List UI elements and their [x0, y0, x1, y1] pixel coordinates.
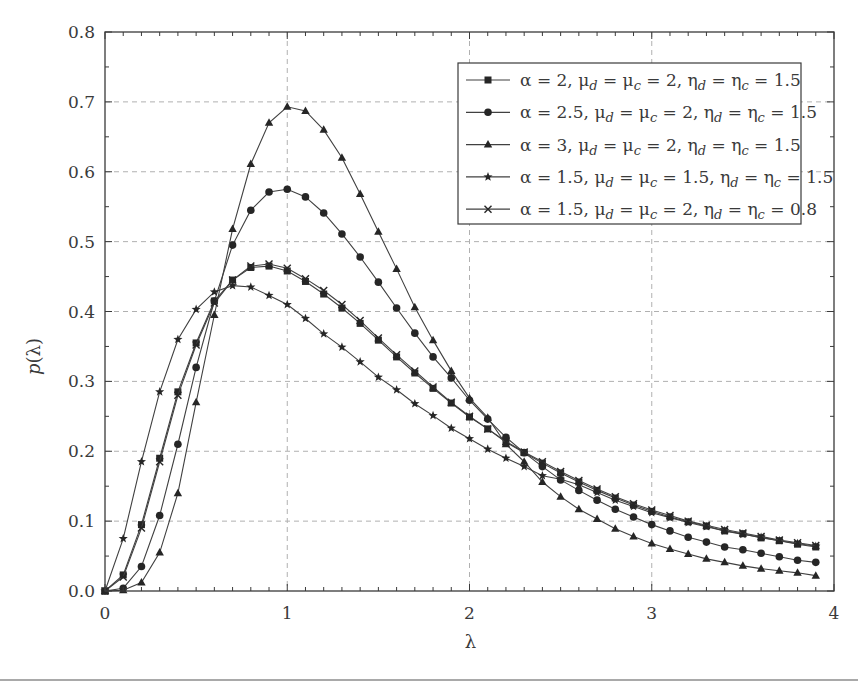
y-tick-label: 0.2	[68, 441, 95, 461]
triangle-marker-icon	[137, 578, 145, 586]
circle-marker-icon	[138, 563, 146, 571]
circle-marker-icon	[666, 527, 674, 535]
y-axis-title: p(λ)	[23, 338, 44, 375]
square-marker-icon	[485, 77, 492, 84]
square-marker-icon	[320, 291, 327, 298]
triangle-marker-icon	[283, 102, 291, 110]
circle-marker-icon	[684, 533, 692, 541]
circle-marker-icon	[484, 109, 492, 117]
circle-marker-icon	[648, 521, 656, 529]
square-marker-icon	[338, 305, 345, 312]
x-axis-title: λ	[465, 631, 476, 652]
circle-marker-icon	[265, 188, 273, 196]
triangle-marker-icon	[611, 524, 619, 532]
circle-marker-icon	[356, 253, 364, 261]
circle-marker-icon	[393, 304, 401, 312]
circle-marker-icon	[320, 209, 328, 217]
circle-marker-icon	[593, 496, 601, 504]
star-marker-icon	[173, 335, 182, 344]
triangle-marker-icon	[447, 366, 455, 374]
triangle-marker-icon	[374, 227, 382, 235]
triangle-marker-icon	[429, 336, 437, 344]
triangle-marker-icon	[411, 303, 419, 311]
x-tick-label: 4	[829, 603, 840, 623]
y-tick-label: 0.1	[68, 511, 95, 531]
x-tick-label: 0	[100, 603, 111, 623]
legend-label: α = 1.5, μd = μc = 1.5, ηd = ηc = 1.5	[520, 167, 833, 190]
triangle-marker-icon	[356, 190, 364, 198]
triangle-marker-icon	[593, 515, 601, 523]
triangle-marker-icon	[174, 489, 182, 497]
star-marker-icon	[119, 534, 128, 543]
circle-marker-icon	[302, 193, 310, 201]
series-star	[100, 281, 820, 595]
triangle-marker-icon	[338, 153, 346, 161]
circle-marker-icon	[721, 543, 729, 551]
triangle-marker-icon	[265, 118, 273, 126]
triangle-marker-icon	[247, 160, 255, 168]
circle-marker-icon	[812, 559, 820, 567]
series-cross	[102, 260, 820, 594]
star-marker-icon	[447, 423, 456, 432]
y-tick-label: 0.8	[68, 22, 95, 42]
y-tick-label: 0.4	[68, 302, 95, 322]
legend-label: α = 3, μd = μc = 2, ηd = ηc = 1.5	[520, 135, 801, 158]
series-square	[102, 263, 820, 595]
triangle-marker-icon	[228, 225, 236, 233]
x-tick-label: 2	[464, 603, 475, 623]
triangle-marker-icon	[392, 264, 400, 272]
y-tick-label: 0.6	[68, 162, 95, 182]
circle-marker-icon	[776, 553, 784, 561]
triangle-marker-icon	[155, 548, 163, 556]
circle-marker-icon	[174, 440, 182, 448]
circle-marker-icon	[247, 206, 255, 214]
circle-marker-icon	[429, 353, 437, 361]
circle-marker-icon	[612, 505, 620, 513]
star-marker-icon	[246, 282, 255, 291]
legend-label: α = 2, μd = μc = 2, ηd = ηc = 1.5	[520, 70, 801, 93]
legend-label: α = 2.5, μd = μc = 2, ηd = ηc = 1.5	[520, 102, 817, 125]
x-tick-label: 3	[646, 603, 657, 623]
y-tick-label: 0.3	[68, 371, 95, 391]
circle-marker-icon	[575, 487, 583, 495]
legend: α = 2, μd = μc = 2, ηd = ηc = 1.5α = 2.5…	[458, 63, 833, 224]
circle-marker-icon	[739, 546, 747, 554]
x-tick-label: 1	[282, 603, 293, 623]
circle-marker-icon	[703, 538, 711, 546]
triangle-marker-icon	[192, 398, 200, 406]
y-tick-label: 0.0	[68, 581, 95, 601]
series-circle	[101, 185, 819, 594]
circle-marker-icon	[192, 364, 200, 372]
star-marker-icon	[501, 453, 510, 462]
line-chart: 012340.00.10.20.30.40.50.60.70.8λp(λ) α …	[0, 0, 858, 686]
circle-marker-icon	[411, 329, 419, 337]
star-marker-icon	[155, 387, 164, 396]
star-marker-icon	[264, 291, 273, 300]
circle-marker-icon	[283, 185, 291, 193]
y-tick-label: 0.7	[68, 92, 95, 112]
series-line	[105, 189, 816, 591]
circle-marker-icon	[375, 278, 383, 286]
triangle-marker-icon	[575, 505, 583, 513]
circle-marker-icon	[757, 549, 765, 557]
circle-marker-icon	[794, 556, 802, 564]
triangle-marker-icon	[556, 492, 564, 500]
series-line	[105, 286, 816, 591]
y-tick-label: 0.5	[68, 232, 95, 252]
circle-marker-icon	[630, 513, 638, 521]
legend-label: α = 1.5, μd = μc = 2, ηd = ηc = 0.8	[520, 199, 817, 222]
chart: 012340.00.10.20.30.40.50.60.70.8λp(λ) α …	[0, 0, 858, 686]
circle-marker-icon	[338, 230, 346, 238]
circle-marker-icon	[156, 512, 164, 520]
star-marker-icon	[137, 457, 146, 466]
